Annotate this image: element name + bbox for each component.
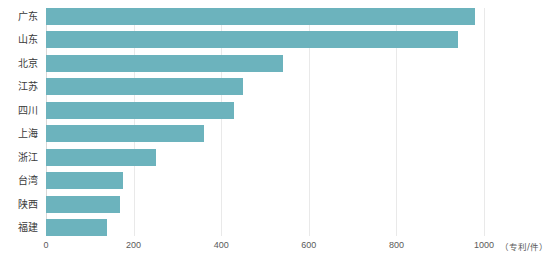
table-row [46, 31, 484, 48]
x-tick-label: 200 [126, 240, 141, 250]
bar[interactable] [46, 102, 234, 119]
category-label: 四川 [0, 102, 42, 119]
bar[interactable] [46, 149, 156, 166]
table-row [46, 219, 484, 236]
bar-series [46, 8, 484, 236]
plot-area [46, 8, 484, 236]
x-tick-label: 1000 [474, 240, 494, 250]
category-label: 浙江 [0, 149, 42, 166]
bar[interactable] [46, 196, 120, 213]
table-row [46, 196, 484, 213]
x-tick-label: 400 [214, 240, 229, 250]
bar[interactable] [46, 55, 283, 72]
table-row [46, 102, 484, 119]
category-label: 福建 [0, 219, 42, 236]
category-label: 上海 [0, 125, 42, 142]
table-row [46, 55, 484, 72]
x-axis: 02004006008001000 [46, 240, 484, 254]
bar-chart: 广东 山东 北京 江苏 四川 上海 浙江 台湾 陕西 福建 0200400600… [0, 0, 552, 269]
category-label: 广东 [0, 8, 42, 25]
bar[interactable] [46, 8, 475, 25]
category-label: 台湾 [0, 172, 42, 189]
x-tick-label: 600 [301, 240, 316, 250]
gridline [484, 8, 485, 236]
bar[interactable] [46, 31, 458, 48]
category-label: 山东 [0, 31, 42, 48]
table-row [46, 78, 484, 95]
table-row [46, 149, 484, 166]
table-row [46, 125, 484, 142]
bar[interactable] [46, 172, 123, 189]
category-label: 江苏 [0, 78, 42, 95]
bar[interactable] [46, 78, 243, 95]
category-axis: 广东 山东 北京 江苏 四川 上海 浙江 台湾 陕西 福建 [0, 8, 42, 236]
x-tick-label: 800 [389, 240, 404, 250]
category-label: 北京 [0, 55, 42, 72]
table-row [46, 172, 484, 189]
bar[interactable] [46, 125, 204, 142]
table-row [46, 8, 484, 25]
category-label: 陕西 [0, 196, 42, 213]
axis-unit-label: （专利/件） [500, 240, 548, 252]
x-tick-label: 0 [43, 240, 48, 250]
bar[interactable] [46, 219, 107, 236]
